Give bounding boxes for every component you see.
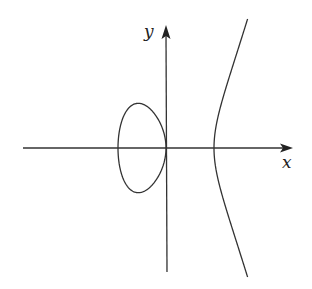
y-axis-label: y [143,21,154,41]
elliptic-curve-diagram: y x [0,0,312,289]
x-axis-label: x [282,152,292,172]
